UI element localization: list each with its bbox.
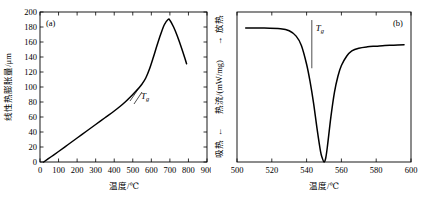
tg-label-a: Tg xyxy=(141,91,150,102)
y-tick-label: 0 xyxy=(33,157,37,167)
y-label-heatflow: 热流/(mW/mg) xyxy=(214,60,224,114)
y-tick-label: 80 xyxy=(29,97,38,107)
x-tick-label: 600 xyxy=(145,165,158,175)
panel-b-plot: 500520540560580600 Tg (b) 温度/℃ 吸热 ← 热流/(… xyxy=(211,0,422,199)
y-tick-label: 160 xyxy=(24,37,37,47)
panel-a-frame xyxy=(40,12,207,162)
y-tick-label: 200 xyxy=(24,7,37,17)
panel-b-x-tick-labels: 500520540560580600 xyxy=(231,165,418,175)
panel-b-x-axis-title: 温度/℃ xyxy=(309,181,339,191)
y-tick-label: 120 xyxy=(24,67,37,77)
figure-container: 0100200300400500600700800900 02040608010… xyxy=(0,0,422,199)
y-label-endothermic: 吸热 xyxy=(214,140,224,158)
panel-b-x-ticks xyxy=(237,12,411,162)
dsc-curve xyxy=(246,28,404,162)
y-tick-label: 60 xyxy=(29,112,38,122)
x-tick-label: 100 xyxy=(52,165,65,175)
panel-a-y-ticks xyxy=(40,12,207,162)
tg-label-b: Tg xyxy=(316,23,325,34)
panel-b-frame xyxy=(237,12,411,162)
x-tick-label: 0 xyxy=(38,165,42,175)
y-tick-label: 40 xyxy=(29,127,38,137)
expansion-curve xyxy=(44,19,187,162)
x-tick-label: 700 xyxy=(164,165,177,175)
panel-a-id: (a) xyxy=(46,18,56,28)
panel-a-plot: 0100200300400500600700800900 02040608010… xyxy=(0,0,211,199)
x-tick-label: 500 xyxy=(231,165,244,175)
x-tick-label: 600 xyxy=(405,165,418,175)
x-tick-label: 400 xyxy=(108,165,121,175)
x-tick-label: 900 xyxy=(201,165,211,175)
arrow-left-icon: ← xyxy=(214,128,224,137)
x-tick-label: 560 xyxy=(335,165,348,175)
panel-a-y-tick-labels: 020406080100120140160180200 xyxy=(24,7,37,167)
arrow-right-icon: → xyxy=(214,37,224,46)
panel-a-x-tick-labels: 0100200300400500600700800900 xyxy=(38,165,211,175)
panel-b-y-axis-title: 吸热 ← 热流/(mW/mg) → 放热 xyxy=(214,15,224,158)
y-tick-label: 100 xyxy=(24,82,37,92)
x-tick-label: 300 xyxy=(89,165,102,175)
y-tick-label: 180 xyxy=(24,22,37,32)
y-label-exothermic: 放热 xyxy=(214,15,224,33)
thermal-expansion-panel: 0100200300400500600700800900 02040608010… xyxy=(0,0,211,199)
panel-a-x-ticks xyxy=(40,12,207,162)
y-tick-label: 140 xyxy=(24,52,37,62)
y-tick-label: 20 xyxy=(29,142,38,152)
dsc-panel: 500520540560580600 Tg (b) 温度/℃ 吸热 ← 热流/(… xyxy=(211,0,422,199)
x-tick-label: 500 xyxy=(126,165,139,175)
panel-b-id: (b) xyxy=(393,18,403,28)
x-tick-label: 520 xyxy=(265,165,278,175)
x-tick-label: 540 xyxy=(300,165,313,175)
panel-a-x-axis-title: 温度/℃ xyxy=(109,181,139,191)
x-tick-label: 580 xyxy=(370,165,383,175)
panel-a-y-axis-title: 线性热膨胀量/μm xyxy=(3,53,13,121)
x-tick-label: 800 xyxy=(182,165,195,175)
x-tick-label: 200 xyxy=(71,165,84,175)
